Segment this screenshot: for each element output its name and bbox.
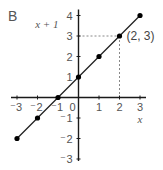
- x-tick-label: 0: [69, 101, 75, 113]
- y-tick-label: ⁻1: [60, 112, 72, 124]
- x-tick-label: ⁻3: [10, 101, 22, 113]
- data-point: [55, 95, 60, 100]
- x-tick-label: ⁻2: [30, 101, 42, 113]
- y-axis-label: x + 1: [34, 18, 58, 30]
- y-tick-label: 2: [66, 51, 72, 63]
- y-tick-label: 4: [66, 10, 72, 22]
- y-tick-label: ⁻3: [60, 153, 72, 165]
- data-point: [35, 115, 40, 120]
- data-point: [14, 136, 19, 141]
- data-point: [137, 13, 142, 18]
- y-tick-label: 1: [66, 71, 72, 83]
- x-axis-label: x: [137, 113, 143, 125]
- data-point: [96, 54, 101, 59]
- x-tick-label: 1: [96, 101, 102, 113]
- y-tick-label: ⁻2: [60, 133, 72, 145]
- data-point: [76, 74, 81, 79]
- dashed-guides: [79, 36, 120, 98]
- line-chart: ⁻3⁻2⁻10123⁻3⁻2⁻11234 (2, 3)x + 1x: [0, 0, 163, 170]
- point-annotation: (2, 3): [127, 29, 155, 43]
- data-point: [117, 33, 122, 38]
- y-tick-label: 3: [66, 30, 72, 42]
- x-tick-label: 3: [137, 101, 143, 113]
- x-tick-label: 2: [116, 101, 122, 113]
